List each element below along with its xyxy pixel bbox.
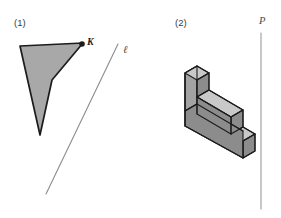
figure-svg: (1) ℓ K (2) P: [0, 0, 281, 218]
panel-1-group: (1) ℓ K: [14, 17, 128, 194]
line-l-label: ℓ: [123, 44, 128, 55]
isometric-staircase-block: [185, 66, 255, 158]
panel-2-label: (2): [175, 17, 187, 28]
point-k-label: K: [86, 36, 95, 47]
panel-1-label: (1): [14, 17, 26, 28]
figure-canvas: (1) ℓ K (2) P: [0, 0, 281, 218]
point-k-marker: [79, 41, 85, 47]
shaded-polygon: [20, 43, 83, 135]
panel-2-group: (2) P: [175, 15, 266, 209]
line-p-label: P: [258, 15, 266, 26]
